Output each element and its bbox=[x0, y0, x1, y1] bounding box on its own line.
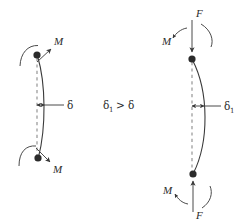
buckling-comparison-figure: M M δ δ 1 > δ bbox=[0, 0, 247, 221]
right-top-force-label: F bbox=[195, 7, 203, 19]
right-top-moment-label: M bbox=[161, 35, 172, 47]
right-deflection-subscript: 1 bbox=[230, 107, 234, 115]
figure-canvas: M M δ δ 1 > δ bbox=[0, 0, 247, 221]
left-deflected-column bbox=[38, 56, 45, 157]
relation-operator: > bbox=[116, 99, 125, 111]
left-deflection-label: δ bbox=[67, 99, 73, 111]
right-bottom-moment-arrow bbox=[175, 194, 188, 204]
right-top-moment-arc bbox=[201, 24, 212, 47]
right-bottom-moment-label: M bbox=[162, 184, 173, 196]
right-deflected-column bbox=[193, 60, 206, 173]
left-case-group: M M δ bbox=[19, 35, 73, 175]
right-bottom-node bbox=[189, 170, 196, 177]
left-bottom-node bbox=[34, 154, 41, 161]
relation-rhs-symbol: δ bbox=[128, 99, 134, 111]
left-top-moment-label: M bbox=[53, 35, 64, 47]
right-case-group: F M F M δ 1 bbox=[161, 7, 234, 221]
right-top-node bbox=[188, 55, 195, 62]
left-top-node bbox=[33, 51, 40, 58]
right-bottom-moment-arc bbox=[202, 186, 211, 208]
left-bottom-moment-label: M bbox=[52, 163, 63, 175]
left-bottom-moment-arc bbox=[19, 146, 36, 166]
relation-lhs-subscript: 1 bbox=[109, 106, 113, 114]
center-relation-group: δ 1 > δ bbox=[103, 99, 134, 114]
right-top-moment-arrow bbox=[173, 28, 187, 38]
right-bottom-force-label: F bbox=[195, 209, 203, 221]
